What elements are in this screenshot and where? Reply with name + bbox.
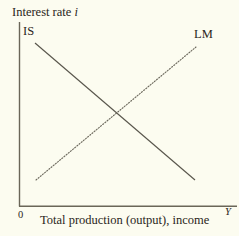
y-axis-title-text: Interest rate xyxy=(12,5,74,19)
x-axis-end-label: Y xyxy=(225,207,231,218)
x-axis-title: Total production (output), income xyxy=(40,214,209,227)
origin-label: 0 xyxy=(18,210,23,221)
is-lm-diagram: Interest rate i IS LM 0 Y Total producti… xyxy=(0,0,239,236)
is-curve xyxy=(35,43,195,180)
is-curve-label: IS xyxy=(23,25,35,38)
y-axis-variable: i xyxy=(74,5,77,19)
y-axis-title: Interest rate i xyxy=(12,6,78,19)
lm-curve-label: LM xyxy=(194,28,213,41)
